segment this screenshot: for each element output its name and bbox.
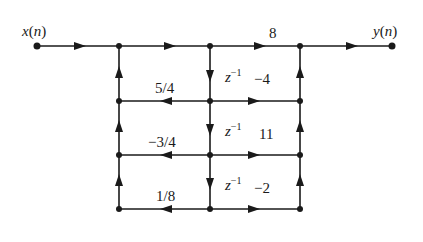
node bbox=[207, 98, 213, 104]
output-node bbox=[389, 43, 396, 50]
node bbox=[116, 152, 122, 158]
gain-b2: 11 bbox=[259, 126, 273, 142]
gain-a3: 1/8 bbox=[156, 188, 175, 204]
node bbox=[207, 43, 213, 49]
gain-b3: −2 bbox=[254, 180, 270, 196]
delay-label-1: z−1 bbox=[224, 67, 241, 85]
gain-a2: −3/4 bbox=[148, 134, 176, 150]
delay-label-3: z−1 bbox=[224, 175, 241, 193]
input-node bbox=[34, 43, 41, 50]
delay-label-2: z−1 bbox=[224, 121, 241, 139]
output-label: y(n) bbox=[371, 23, 397, 40]
node bbox=[297, 152, 303, 158]
node bbox=[207, 152, 213, 158]
node bbox=[116, 206, 122, 212]
node bbox=[116, 43, 122, 49]
gain-b1: −4 bbox=[254, 71, 270, 87]
node bbox=[297, 206, 303, 212]
gain-b0: 8 bbox=[269, 25, 277, 41]
node bbox=[116, 98, 122, 104]
node bbox=[207, 206, 213, 212]
gain-a1: 5/4 bbox=[155, 80, 175, 96]
node bbox=[297, 43, 303, 49]
signal-flow-graph: x(n) y(n) 8 5/4 −3/4 1/8 −4 11 −2 z−1 z−… bbox=[0, 0, 423, 242]
input-label: x(n) bbox=[21, 23, 46, 40]
node bbox=[297, 98, 303, 104]
